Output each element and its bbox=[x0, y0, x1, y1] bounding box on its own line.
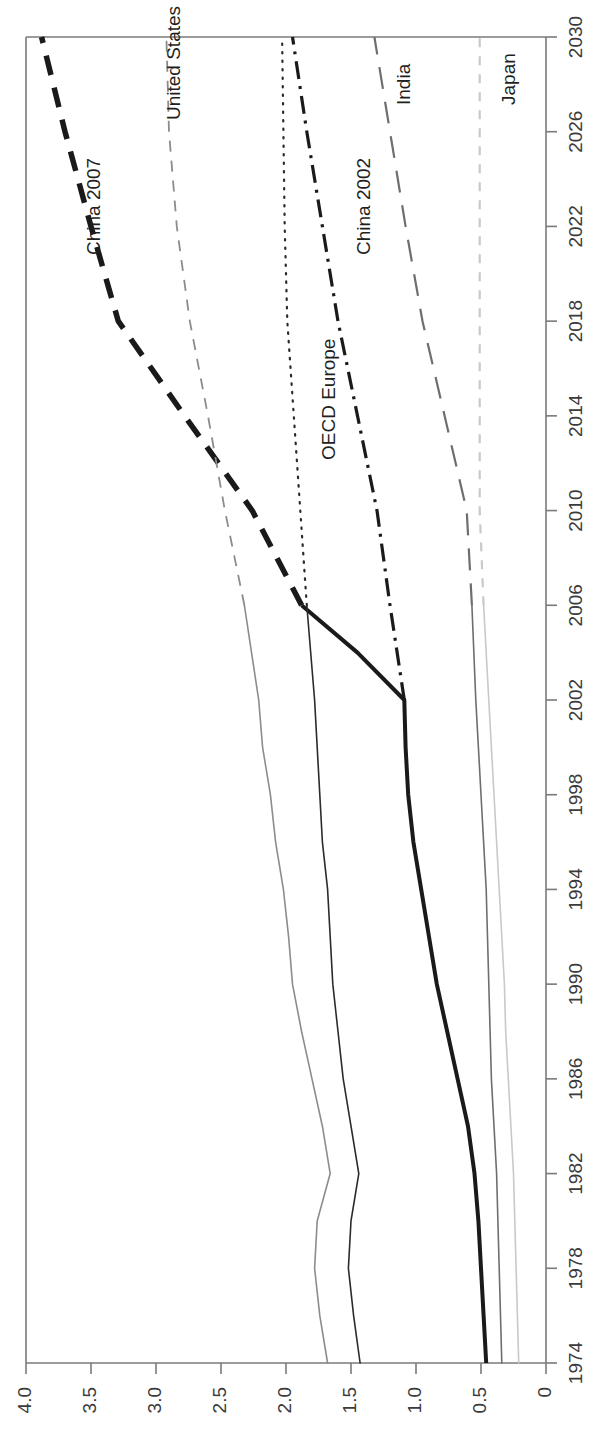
value-tick: 1.0 bbox=[404, 1363, 425, 1413]
line-chart-svg: 4.03.53.02.52.01.51.00.50 China 2007Unit… bbox=[0, 0, 615, 1441]
year-tick-label: 1974 bbox=[565, 1341, 586, 1384]
series-line-history bbox=[472, 605, 502, 1363]
value-tick-label: 0 bbox=[534, 1387, 555, 1398]
value-tick: 0 bbox=[534, 1363, 555, 1398]
series-label-india: India bbox=[393, 63, 414, 105]
series-line-history bbox=[307, 605, 360, 1363]
value-tick: 3.5 bbox=[79, 1363, 100, 1413]
value-tick-label: 3.0 bbox=[144, 1387, 165, 1413]
year-tick-label: 2030 bbox=[565, 16, 586, 58]
value-tick: 0.5 bbox=[469, 1363, 490, 1413]
year-tick-label: 2006 bbox=[565, 584, 586, 626]
year-tick-label: 2010 bbox=[565, 489, 586, 531]
year-tick-label: 2022 bbox=[565, 205, 586, 247]
value-tick-label: 4.0 bbox=[14, 1387, 35, 1413]
series-line-projection bbox=[480, 37, 484, 605]
year-tick-label: 1986 bbox=[565, 1058, 586, 1100]
series-line bbox=[302, 605, 487, 1363]
year-tick-label: 2026 bbox=[565, 111, 586, 153]
series-label-oecd-europe: OECD Europe bbox=[318, 339, 339, 460]
value-tick-label: 1.5 bbox=[339, 1387, 360, 1413]
year-tick-label: 2002 bbox=[565, 679, 586, 721]
year-tick-label: 1998 bbox=[565, 774, 586, 816]
series-label-china-2007: China 2007 bbox=[83, 158, 104, 255]
series-line-projection bbox=[166, 37, 244, 605]
value-tick-label: 0.5 bbox=[469, 1387, 490, 1413]
value-tick: 2.0 bbox=[274, 1363, 295, 1413]
value-tick: 4.0 bbox=[14, 1363, 35, 1413]
series-group bbox=[42, 37, 519, 1363]
series-line-history bbox=[244, 605, 330, 1363]
tick-labels-group: 1974197819821986199019941998200220062010… bbox=[565, 16, 586, 1384]
value-tick: 3.0 bbox=[144, 1363, 165, 1413]
value-tick-label: 2.5 bbox=[209, 1387, 230, 1413]
year-tick-label: 1994 bbox=[565, 868, 586, 911]
series-label-united-states: United States bbox=[163, 6, 184, 120]
year-tick-label: 1982 bbox=[565, 1152, 586, 1194]
plot-area: 4.03.53.02.52.01.51.00.50 China 2007Unit… bbox=[0, 0, 615, 1441]
series-line bbox=[42, 37, 302, 605]
value-tick: 2.5 bbox=[209, 1363, 230, 1413]
series-line-projection bbox=[374, 37, 472, 605]
series-line bbox=[293, 37, 405, 700]
year-tick-label: 2018 bbox=[565, 300, 586, 342]
value-tick-label: 1.0 bbox=[404, 1387, 425, 1413]
year-tick-label: 1990 bbox=[565, 963, 586, 1005]
series-line-projection bbox=[282, 37, 307, 605]
year-tick-label: 2014 bbox=[565, 394, 586, 437]
series-label-china-2002: China 2002 bbox=[353, 158, 374, 255]
year-tick-label: 1978 bbox=[565, 1247, 586, 1289]
value-tick-label: 3.5 bbox=[79, 1387, 100, 1413]
value-tick: 1.5 bbox=[339, 1363, 360, 1413]
chart-root: 4.03.53.02.52.01.51.00.50 China 2007Unit… bbox=[0, 0, 615, 1441]
series-label-japan: Japan bbox=[498, 53, 519, 105]
series-labels-group: China 2007United StatesOECD EuropeChina … bbox=[83, 6, 519, 460]
value-tick-label: 2.0 bbox=[274, 1387, 295, 1413]
